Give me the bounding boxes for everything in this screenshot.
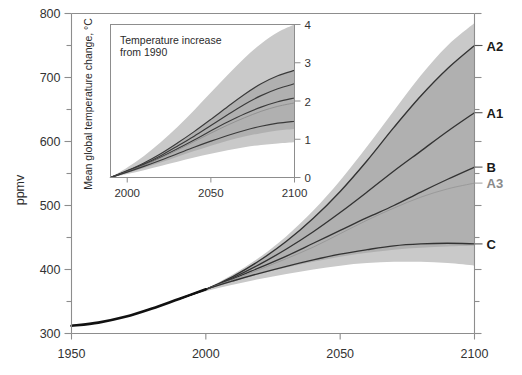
x-tick-label-2100: 2100	[461, 347, 489, 361]
figure-canvas: 300400500600700800 1950200020502100 ppmv…	[0, 0, 522, 375]
y-tick-label-800: 800	[40, 7, 61, 21]
inset-x-tick-label-2050: 2050	[198, 187, 224, 199]
scenario-label-A1: A1	[487, 106, 504, 121]
y-tick-label-500: 500	[40, 199, 61, 213]
x-tick-label-2050: 2050	[326, 347, 354, 361]
scenario-label-C: C	[487, 237, 497, 252]
inset-y-tick-label-1: 1	[305, 134, 311, 146]
y-tick-label-400: 400	[40, 263, 61, 277]
scenario-label-A2: A2	[487, 39, 504, 54]
inset-y-tick-label-0: 0	[305, 172, 311, 184]
y-axis-label: ppmv	[13, 174, 27, 205]
inset-title-line1: Temperature increase	[120, 34, 222, 46]
scenario-label-B: B	[487, 160, 496, 175]
inset-y-tick-label-2: 2	[305, 96, 311, 108]
x-tick-label-1950: 1950	[58, 347, 86, 361]
co2-scenarios-chart: 300400500600700800 1950200020502100 ppmv…	[0, 0, 522, 375]
inset-y-axis-label: Mean global temperature change, °C	[82, 18, 94, 190]
y-tick-label-300: 300	[40, 327, 61, 341]
y-tick-label-700: 700	[40, 71, 61, 85]
y-tick-label-600: 600	[40, 135, 61, 149]
inset-x-tick-label-2000: 2000	[114, 187, 140, 199]
inset-y-tick-label-3: 3	[305, 57, 311, 69]
inset-x-tick-label-2100: 2100	[282, 187, 308, 199]
inset-title-line2: from 1990	[120, 46, 167, 58]
x-tick-label-2000: 2000	[192, 347, 220, 361]
inset-plot: 01234 200020502100 Temperature increase …	[82, 18, 312, 199]
scenario-label-A3: A3	[487, 176, 504, 191]
inset-y-tick-label-4: 4	[305, 19, 312, 31]
